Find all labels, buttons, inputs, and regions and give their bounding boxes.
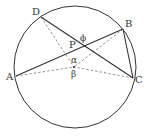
inscribed-angle-diagram: D B A C P ϕ α β: [0, 0, 152, 136]
angle-beta-label: β: [71, 69, 76, 79]
label-B: B: [125, 18, 132, 29]
label-D: D: [32, 6, 40, 17]
angle-alpha-label: α: [71, 55, 77, 65]
angle-phi-label: ϕ: [80, 33, 86, 43]
label-C: C: [135, 74, 143, 85]
center-point: [73, 66, 75, 68]
label-A: A: [5, 71, 14, 82]
chord-DC: [41, 17, 133, 78]
dashed-line-AO: [16, 67, 74, 76]
label-P: P: [69, 39, 76, 50]
